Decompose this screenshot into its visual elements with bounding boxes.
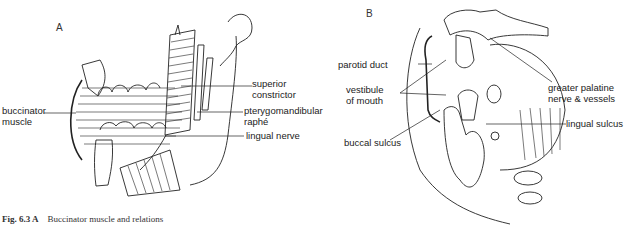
- figure-caption: Fig. 6.3 A Buccinator muscle and relatio…: [2, 214, 163, 224]
- label-superior-constrictor: superior constrictor: [252, 78, 296, 100]
- label-buccal-sulcus: buccal sulcus: [344, 137, 401, 148]
- label-pterygomandibular-raphe: pterygomandibular raphé: [244, 105, 323, 127]
- label-lingual-nerve: lingual nerve: [246, 130, 300, 141]
- panel-b-letter: B: [366, 8, 373, 19]
- panel-b-drawing: [390, 10, 566, 224]
- label-parotid-duct: parotid duct: [338, 59, 388, 70]
- panel-a-drawing: [44, 14, 252, 196]
- label-lingual-sulcus: lingual sulcus: [566, 118, 623, 129]
- panel-a-letter: A: [56, 22, 63, 33]
- caption-label: Fig. 6.3 A: [2, 214, 39, 224]
- label-greater-palatine: greater palatine nerve & vessels: [548, 82, 615, 104]
- label-vestibule-of-mouth: vestibule of mouth: [346, 84, 384, 106]
- caption-text: Buccinator muscle and relations: [48, 214, 164, 224]
- label-buccinator-muscle: buccinator muscle: [2, 105, 46, 127]
